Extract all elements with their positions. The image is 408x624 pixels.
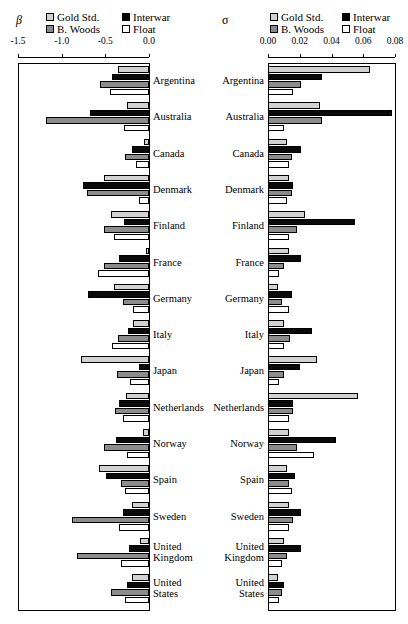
bar [139, 197, 149, 204]
x-tick-label: 0.08 [387, 36, 404, 46]
row-label-germany: Germany [153, 293, 211, 304]
legend-item-interwar[interactable]: Interwar [122, 11, 192, 23]
legend-item-float[interactable]: Float [342, 23, 408, 35]
bar [268, 335, 290, 342]
bar [268, 66, 370, 73]
x-tick-label: 0.04 [323, 36, 340, 46]
bar [268, 146, 301, 153]
bar [146, 248, 149, 255]
bar [268, 415, 289, 422]
bar [132, 574, 149, 581]
bar [114, 284, 149, 291]
bar [268, 560, 282, 567]
legend-item-gold-std[interactable]: Gold Std. [46, 11, 122, 23]
legend-label: Interwar [133, 11, 170, 23]
x-tick-label: -1.5 [10, 36, 25, 46]
legend-row: Gold Std.Interwar [46, 11, 192, 23]
bar [268, 379, 279, 386]
bar [268, 473, 295, 480]
bar [114, 234, 149, 241]
bar [268, 509, 301, 516]
bar [268, 574, 278, 581]
row-label-united-kingdom: UnitedKingdom [153, 541, 211, 563]
row-label-united-states: UnitedStates [210, 577, 264, 599]
bar [118, 335, 149, 342]
bar [268, 444, 297, 451]
bar [268, 452, 314, 459]
row-label-spain: Spain [210, 474, 264, 485]
bar [127, 102, 149, 109]
legend-label: B. Woods [57, 23, 100, 35]
row-label-line: Kingdom [210, 552, 264, 563]
bar [268, 589, 282, 596]
bar [268, 291, 292, 298]
bar [81, 356, 149, 363]
bar [268, 517, 293, 524]
axis-tick-mark [18, 54, 19, 57]
bar [111, 211, 149, 218]
beta-tick-labels: -1.5-1.0-0.50.0 [0, 36, 210, 48]
bar [119, 524, 149, 531]
bar [77, 553, 149, 560]
bar [268, 110, 392, 117]
bar [268, 182, 293, 189]
legend-item-b-woods[interactable]: B. Woods [270, 23, 342, 35]
bar [268, 197, 287, 204]
bar [136, 161, 149, 168]
bar [268, 81, 301, 88]
bar [110, 89, 149, 96]
legend-item-gold-std[interactable]: Gold Std. [270, 11, 342, 23]
sigma-symbol: σ [222, 13, 228, 28]
bar [123, 509, 149, 516]
row-label-finland: Finland [153, 220, 211, 231]
x-tick-label: -1.0 [54, 36, 69, 46]
beta-zero-axis [149, 63, 150, 611]
row-label-germany: Germany [210, 293, 264, 304]
axis-tick-mark [300, 54, 301, 57]
x-tick-label: 0.06 [355, 36, 372, 46]
legend-swatch-icon [122, 13, 130, 21]
bar [268, 175, 289, 182]
bar [268, 161, 289, 168]
beta-symbol: β [16, 13, 22, 28]
bar [268, 429, 289, 436]
bar [118, 66, 149, 73]
axis-tick-mark [332, 54, 333, 57]
bar [119, 400, 149, 407]
bar [125, 597, 149, 604]
bar [126, 393, 149, 400]
bar [268, 364, 300, 371]
legend-row: Gold Std.Interwar [270, 11, 408, 23]
bar [268, 255, 301, 262]
row-label-netherlands: Netherlands [210, 402, 264, 413]
bar [268, 400, 293, 407]
legend-item-float[interactable]: Float [122, 23, 192, 35]
row-label-italy: Italy [153, 329, 211, 340]
bar [268, 320, 284, 327]
row-label-norway: Norway [210, 438, 264, 449]
legend-label: Gold Std. [57, 11, 99, 23]
bar [125, 488, 149, 495]
beta-legend: Gold Std.InterwarB. WoodsFloat [46, 11, 192, 35]
sigma-panel: σ Gold Std.InterwarB. WoodsFloat 0.000.0… [210, 0, 403, 624]
legend-swatch-icon [342, 25, 350, 33]
legend-swatch-icon [122, 25, 130, 33]
x-tick-label: 0.02 [291, 36, 308, 46]
legend-swatch-icon [270, 13, 278, 21]
row-label-line: States [153, 588, 211, 599]
bar [104, 175, 149, 182]
bar [268, 154, 292, 161]
legend-item-b-woods[interactable]: B. Woods [46, 23, 122, 35]
row-label-line: United [153, 577, 211, 588]
axis-tick-mark [62, 54, 63, 57]
bar [268, 408, 293, 415]
row-label-united-kingdom: UnitedKingdom [210, 541, 264, 563]
row-label-sweden: Sweden [153, 511, 211, 522]
x-tick-label: -0.5 [98, 36, 113, 46]
bar [268, 248, 289, 255]
axis-tick-mark [395, 54, 396, 57]
bar [268, 102, 320, 109]
row-label-australia: Australia [153, 111, 211, 122]
bar [106, 473, 149, 480]
legend-item-interwar[interactable]: Interwar [342, 11, 408, 23]
